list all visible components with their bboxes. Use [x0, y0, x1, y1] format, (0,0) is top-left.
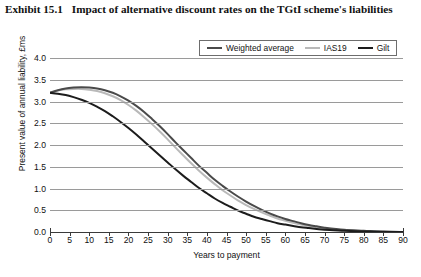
- gridline: [50, 189, 403, 190]
- exhibit-number: Exhibit 15.1: [5, 3, 63, 15]
- y-tick-label: 1.0: [2, 185, 46, 194]
- gridline: [50, 102, 403, 103]
- x-axis-title: Years to payment: [50, 250, 403, 260]
- gridline: [50, 123, 403, 124]
- plot-area: [50, 58, 403, 232]
- y-axis-tick-labels: 0.00.51.01.52.02.53.03.54.0: [0, 58, 46, 232]
- y-tick-label: 3.5: [2, 76, 46, 85]
- chart-legend: Weighted averageIAS19Gilt: [199, 40, 397, 56]
- y-tick-label: 4.0: [2, 54, 46, 63]
- gridline: [50, 167, 403, 168]
- legend-line-swatch: [305, 47, 320, 49]
- y-tick-label: 2.0: [2, 141, 46, 150]
- legend-item-weighted-average[interactable]: Weighted average: [207, 44, 294, 53]
- gridline: [50, 80, 403, 81]
- y-tick-label: 0.5: [2, 206, 46, 215]
- legend-label: IAS19: [324, 44, 347, 53]
- gridline: [50, 210, 403, 211]
- legend-label: Weighted average: [226, 44, 294, 53]
- legend-item-ias19[interactable]: IAS19: [305, 44, 347, 53]
- legend-line-swatch: [207, 47, 222, 49]
- chart-area: Present value of annual liability, £ms 0…: [0, 24, 421, 277]
- y-tick-label: 3.0: [2, 98, 46, 107]
- gridline: [50, 58, 403, 59]
- page-title: Exhibit 15.1Impact of alternative discou…: [5, 2, 417, 16]
- legend-line-swatch: [358, 47, 373, 49]
- legend-label: Gilt: [377, 44, 390, 53]
- y-tick-label: 2.5: [2, 119, 46, 128]
- x-tick-label: 90: [391, 236, 415, 245]
- exhibit-figure: Exhibit 15.1Impact of alternative discou…: [0, 0, 421, 277]
- legend-item-gilt[interactable]: Gilt: [358, 44, 390, 53]
- exhibit-title-text: Impact of alternative discount rates on …: [72, 3, 393, 15]
- gridline: [50, 145, 403, 146]
- y-tick-label: 1.5: [2, 163, 46, 172]
